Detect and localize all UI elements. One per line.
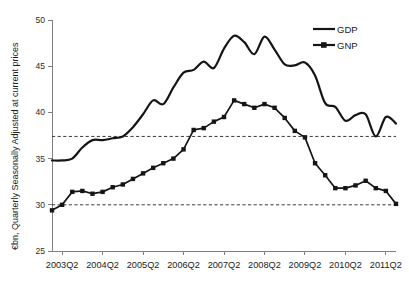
gdp-gnp-line-chart: €bn, Quarterly Seasonally Adjusted at cu… [0, 0, 409, 285]
gnp-data-point [343, 186, 347, 190]
gnp-data-point [232, 98, 236, 102]
x-tick-label: 2005Q2 [127, 260, 160, 270]
gnp-data-point [111, 185, 115, 189]
gnp-data-point [191, 128, 195, 132]
gnp-data-point [100, 190, 104, 194]
gnp-data-point [50, 208, 54, 212]
gnp-data-point [70, 190, 74, 194]
gnp-data-point [313, 161, 317, 165]
gnp-data-point [90, 192, 94, 196]
gnp-data-point [242, 102, 246, 106]
gnp-data-point [60, 203, 64, 207]
x-tick-label: 2004Q2 [86, 260, 119, 270]
y-tick-label: 30 [36, 200, 46, 210]
gnp-data-point [171, 156, 175, 160]
gnp-data-point [394, 202, 398, 206]
gnp-data-point [121, 182, 125, 186]
gnp-data-point [161, 161, 165, 165]
legend-marker-gnp [321, 42, 327, 48]
legend-label-gnp: GNP [337, 40, 358, 51]
x-tick-label: 2008Q2 [248, 260, 281, 270]
x-tick-label: 2009Q2 [289, 260, 322, 270]
gdp-series-line [52, 36, 396, 161]
gnp-data-point [181, 147, 185, 151]
y-axis-title: €bn, Quarterly Seasonally Adjusted at cu… [10, 42, 20, 250]
gnp-series-markers [50, 98, 398, 212]
gnp-data-point [262, 102, 266, 106]
gnp-data-point [272, 106, 276, 110]
reference-lines [52, 136, 396, 204]
x-tick-label: 2003Q2 [46, 260, 79, 270]
y-tick-label: 45 [36, 61, 46, 71]
gnp-data-point [374, 186, 378, 190]
x-axis-ticks: 2003Q22004Q22005Q22006Q22007Q22008Q22009… [46, 251, 402, 270]
gnp-data-point [131, 177, 135, 181]
gnp-data-point [141, 171, 145, 175]
gnp-data-point [80, 189, 84, 193]
gnp-data-point [252, 106, 256, 110]
x-tick-label: 2007Q2 [208, 260, 241, 270]
x-tick-label: 2006Q2 [167, 260, 200, 270]
gnp-data-point [323, 173, 327, 177]
y-axis-ticks: 253035404550 [36, 15, 52, 256]
y-tick-label: 25 [36, 246, 46, 256]
y-tick-label: 40 [36, 107, 46, 117]
gnp-data-point [283, 116, 287, 120]
legend-label-gdp: GDP [337, 24, 358, 35]
gnp-data-point [202, 126, 206, 130]
gnp-data-point [222, 115, 226, 119]
gnp-data-point [212, 119, 216, 123]
gnp-data-point [353, 183, 357, 187]
y-axis-title-group: €bn, Quarterly Seasonally Adjusted at cu… [10, 42, 20, 250]
gnp-data-point [293, 129, 297, 133]
chart-legend: GDPGNP [313, 24, 358, 51]
y-tick-label: 50 [36, 15, 46, 25]
gnp-data-point [303, 135, 307, 139]
gnp-data-point [151, 166, 155, 170]
chart-container: €bn, Quarterly Seasonally Adjusted at cu… [0, 0, 409, 285]
gnp-data-point [384, 189, 388, 193]
x-tick-label: 2011Q2 [370, 260, 402, 270]
gnp-data-point [333, 186, 337, 190]
y-tick-label: 35 [36, 154, 46, 164]
x-tick-label: 2010Q2 [329, 260, 362, 270]
gnp-data-point [363, 179, 367, 183]
